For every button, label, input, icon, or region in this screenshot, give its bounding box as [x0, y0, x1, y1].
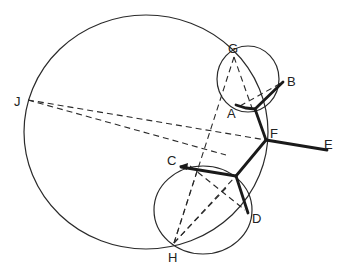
label-e: E	[324, 137, 333, 152]
thick-lower-junction-to-d	[236, 176, 248, 213]
label-g: G	[228, 41, 238, 56]
label-d: D	[252, 211, 261, 226]
dashed-j-to-lower	[28, 100, 226, 155]
upper-small-circle	[217, 46, 279, 112]
label-b: B	[287, 74, 296, 89]
dashed-g-to-h	[174, 57, 234, 243]
dashed-h-to-c	[174, 168, 198, 243]
label-c: C	[167, 153, 176, 168]
dashed-lines	[28, 57, 283, 243]
point-labels: A B C D E F G H J	[14, 41, 333, 265]
label-f: F	[270, 126, 278, 141]
thick-f-to-e	[266, 140, 327, 150]
label-a: A	[227, 106, 236, 121]
dashed-h-to-d	[174, 188, 226, 243]
label-h: H	[168, 250, 177, 265]
thick-lines	[179, 82, 327, 213]
label-j: J	[14, 94, 21, 109]
geometry-diagram: A B C D E F G H J	[0, 0, 345, 273]
thick-junction-to-f	[255, 109, 266, 140]
